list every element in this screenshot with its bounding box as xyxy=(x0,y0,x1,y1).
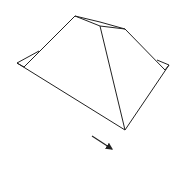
left-slope-edge xyxy=(24,16,75,67)
right-slope-edge xyxy=(125,29,165,70)
direction-arrow-icon xyxy=(92,136,112,149)
polyhedron-diagram xyxy=(0,0,185,171)
front-right-base-edge xyxy=(125,65,169,130)
diagram-canvas xyxy=(0,0,185,171)
polyhedron-edges xyxy=(17,16,169,130)
front-center-edge xyxy=(100,26,125,130)
front-left-base-edge xyxy=(17,63,125,130)
